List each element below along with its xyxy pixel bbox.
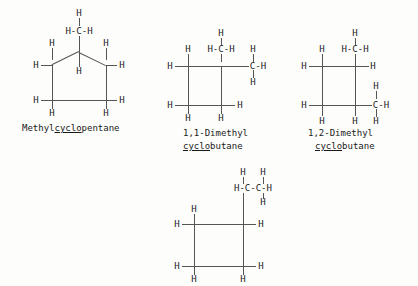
bond-vertical <box>188 54 189 66</box>
bond-horizontal <box>175 66 188 67</box>
bond-horizontal <box>243 224 256 225</box>
caption-methylcyclopentane: Methylcyclopentane <box>22 122 120 135</box>
bond-vertical <box>355 105 356 116</box>
atom-group-hch: H-C-H <box>341 45 368 54</box>
bond-vertical <box>355 66 356 105</box>
atom-label-h: H <box>240 275 245 284</box>
atom-label-h: H <box>319 117 324 126</box>
bond-vertical <box>188 105 189 114</box>
atom-label-h: H <box>185 114 190 123</box>
bond-horizontal <box>309 66 322 67</box>
bond-vertical <box>194 266 195 275</box>
bond-horizontal <box>41 100 52 101</box>
bond-horizontal <box>175 105 188 106</box>
bond-horizontal <box>322 105 355 106</box>
bond-horizontal <box>188 66 221 67</box>
bond-horizontal <box>355 66 369 67</box>
caption-part-underlined: cyclo <box>183 141 210 151</box>
bond-horizontal <box>322 66 355 67</box>
diagram-canvas: H H-C-H H H H H H H H <box>0 0 418 286</box>
bond-diagonal <box>79 52 106 66</box>
atom-label-h: H <box>185 45 190 54</box>
caption-part-post: butane <box>210 141 243 151</box>
bond-horizontal <box>243 266 256 267</box>
atom-label-h: H <box>49 109 54 118</box>
caption-11-dimethylcyclobutane-line2: cyclobutane <box>183 140 243 153</box>
bond-vertical <box>221 105 222 114</box>
caption-part-underlined: cyclo <box>55 123 82 133</box>
atom-group-hch: H-C-H <box>207 45 234 54</box>
atom-label-h: H <box>33 61 38 70</box>
atom-label-h: H <box>250 45 255 54</box>
atom-label-h: H <box>301 62 306 71</box>
bond-vertical <box>106 48 107 60</box>
bond-vertical <box>263 193 264 199</box>
atom-label-h: H <box>373 82 378 91</box>
atom-label-h: H <box>119 61 124 70</box>
atom-group-ethyl-chain: H-C-C-H <box>234 184 272 193</box>
atom-label-h: H <box>237 101 242 110</box>
caption-part-post: pentane <box>82 123 120 133</box>
bond-horizontal <box>194 266 243 267</box>
atom-label-h: H <box>373 117 378 126</box>
atom-label-h: H <box>167 101 172 110</box>
atom-label-h: H <box>370 62 375 71</box>
caption-part-underlined: cyclo <box>315 141 342 151</box>
bond-horizontal <box>52 100 106 101</box>
bond-vertical <box>243 193 244 224</box>
atom-label-h: H <box>301 101 306 110</box>
bond-vertical <box>194 224 195 266</box>
bond-diagonal <box>52 51 79 65</box>
caption-12-dimethylcyclobutane-line2: cyclobutane <box>315 140 375 153</box>
atom-label-h: H <box>167 62 172 71</box>
bond-horizontal <box>106 100 117 101</box>
bond-vertical <box>322 66 323 105</box>
bond-vertical <box>188 66 189 105</box>
atom-label-h: H <box>174 262 179 271</box>
bond-horizontal <box>182 224 194 225</box>
atom-label-h: H <box>260 168 265 177</box>
caption-text: 1,2-Dimethyl <box>308 128 373 138</box>
bond-vertical <box>221 66 222 105</box>
atom-label-h: H <box>319 45 324 54</box>
atom-label-h: H <box>119 96 124 105</box>
atom-label-h: H <box>352 29 357 38</box>
bond-horizontal <box>309 105 322 106</box>
bond-horizontal <box>41 65 52 66</box>
bond-horizontal <box>194 224 243 225</box>
bond-vertical <box>79 52 80 67</box>
atom-label-h: H <box>191 205 196 214</box>
atom-label-h: H <box>174 220 179 229</box>
atom-label-h: H <box>240 168 245 177</box>
bond-horizontal <box>106 65 117 66</box>
bond-vertical <box>106 65 107 100</box>
atom-label-h: H <box>76 67 81 76</box>
bond-vertical <box>52 65 53 100</box>
bond-vertical <box>322 54 323 66</box>
atom-label-h: H <box>218 114 223 123</box>
caption-part-pre: Methyl <box>22 123 55 133</box>
bond-vertical <box>376 91 377 99</box>
bond-vertical <box>322 105 323 116</box>
bond-horizontal <box>221 66 249 67</box>
atom-group-hch: H-C-H <box>65 27 92 36</box>
bond-vertical <box>221 54 222 62</box>
caption-12-dimethylcyclobutane-line1: 1,2-Dimethyl <box>308 127 373 140</box>
bond-vertical <box>243 224 244 266</box>
atom-label-h: H <box>103 109 108 118</box>
bond-vertical <box>79 36 80 52</box>
atom-label-h: H <box>258 220 263 229</box>
atom-label-h: H <box>258 262 263 271</box>
bond-horizontal <box>355 105 372 106</box>
bond-vertical <box>194 214 195 224</box>
bond-horizontal <box>188 105 221 106</box>
caption-11-dimethylcyclobutane-line1: 1,1-Dimethyl <box>183 127 248 140</box>
caption-part-post: butane <box>342 141 375 151</box>
atom-label-h: H <box>33 96 38 105</box>
atom-label-h: H <box>352 117 357 126</box>
bond-vertical <box>52 100 53 109</box>
caption-text: 1,1-Dimethyl <box>183 128 248 138</box>
bond-horizontal <box>221 105 235 106</box>
atom-label-h: H <box>76 9 81 18</box>
atom-label-h: H <box>191 275 196 284</box>
